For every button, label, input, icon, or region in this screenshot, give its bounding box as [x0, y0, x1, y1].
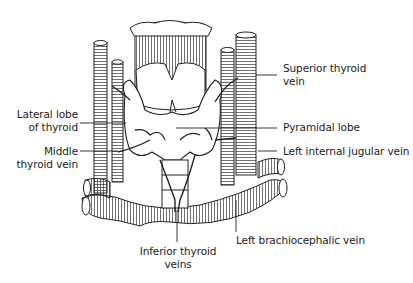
label-line: Lateral lobe	[0, 108, 78, 121]
larynx-shape	[130, 21, 212, 111]
label-pyramidal-lobe: Pyramidal lobe	[283, 121, 360, 134]
label-superior-thyroid-vein: Superior thyroid vein	[283, 62, 366, 88]
label-line: of thyroid	[0, 121, 78, 134]
label-line: thyroid vein	[0, 158, 78, 171]
label-line: veins	[130, 258, 226, 271]
label-left-brachiocephalic-vein: Left brachiocephalic vein	[236, 234, 365, 247]
label-lateral-lobe: Lateral lobe of thyroid	[0, 108, 78, 134]
label-inferior-thyroid-veins: Inferior thyroid veins	[130, 245, 226, 271]
label-left-internal-jugular-vein: Left internal jugular vein	[283, 145, 409, 158]
label-line: Middle	[0, 145, 78, 158]
label-line: Inferior thyroid	[130, 245, 226, 258]
label-line: Superior thyroid	[283, 62, 366, 75]
label-middle-thyroid-vein: Middle thyroid vein	[0, 145, 78, 171]
label-line: vein	[283, 75, 366, 88]
